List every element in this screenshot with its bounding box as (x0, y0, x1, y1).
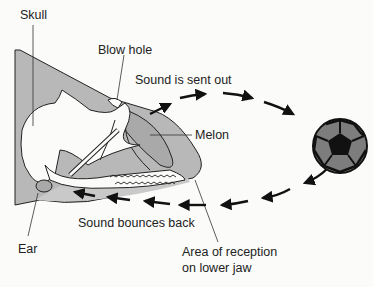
label-melon: Melon (195, 128, 229, 142)
label-sound-sent-out: Sound is sent out (135, 73, 232, 87)
echolocation-diagram: Skull Blow hole Sound is sent out Melon … (0, 0, 373, 287)
ear (36, 180, 52, 192)
label-reception-line1: Area of reception (182, 245, 277, 259)
label-skull: Skull (20, 8, 47, 22)
label-sound-bounces-back: Sound bounces back (78, 216, 195, 230)
label-ear: Ear (18, 242, 37, 256)
sound-out-arrows (150, 93, 293, 114)
label-reception-line2: on lower jaw (182, 261, 251, 275)
soccer-ball (313, 119, 367, 173)
label-blow-hole: Blow hole (98, 43, 152, 57)
